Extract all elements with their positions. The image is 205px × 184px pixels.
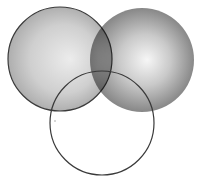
left-circle [8, 7, 112, 111]
venn-diagram [0, 0, 205, 184]
small-dot-mark [54, 120, 56, 122]
